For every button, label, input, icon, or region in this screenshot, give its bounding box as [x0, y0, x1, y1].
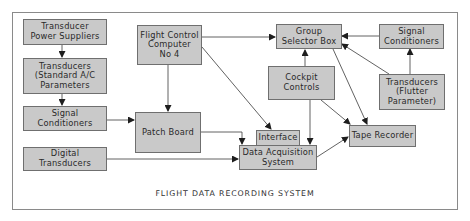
node-cockpit-controls: Cockpit Controls — [268, 66, 335, 100]
node-transducers-standard: Transducers (Standard A/C Parameters — [23, 58, 107, 94]
node-transducers-flutter: Transducers (Flutter Parameter) — [379, 74, 445, 110]
node-interface: Interface — [256, 130, 300, 146]
node-data-acquisition-system: Data Acquisition System — [239, 145, 317, 170]
node-signal-conditioners-right: Signal Conditioners — [379, 24, 444, 49]
node-patch-board: Patch Board — [135, 112, 201, 153]
diagram-caption: FLIGHT DATA RECORDING SYSTEM — [0, 189, 470, 198]
node-transducer-power-suppliers: Transducer Power Suppliers — [23, 19, 107, 45]
node-signal-conditioners-left: Signal Conditioners — [23, 106, 107, 131]
node-flight-control-computer: Flight Control Computer No 4 — [137, 25, 202, 65]
node-digital-transducers: Digital Transducers — [23, 147, 107, 171]
node-group-selector-box: Group Selector Box — [276, 24, 342, 49]
node-tape-recorder: Tape Recorder — [349, 125, 416, 147]
